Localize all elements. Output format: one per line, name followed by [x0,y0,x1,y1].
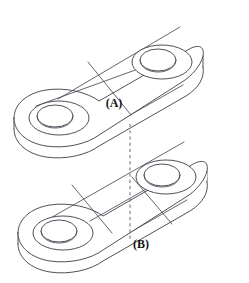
label-upper-part: (A) [106,96,123,110]
upper-plate-left-hole [29,101,89,135]
lower-plate-right-hole [136,160,196,194]
upper-plate-right-hole [132,45,192,79]
label-lower-part: (B) [133,237,149,251]
lower-plate-left-hole [33,216,93,250]
isometric-plate-drawing: (A) (B) [0,0,249,283]
lower-plate-group [18,142,207,273]
upper-plate-group [14,27,203,158]
